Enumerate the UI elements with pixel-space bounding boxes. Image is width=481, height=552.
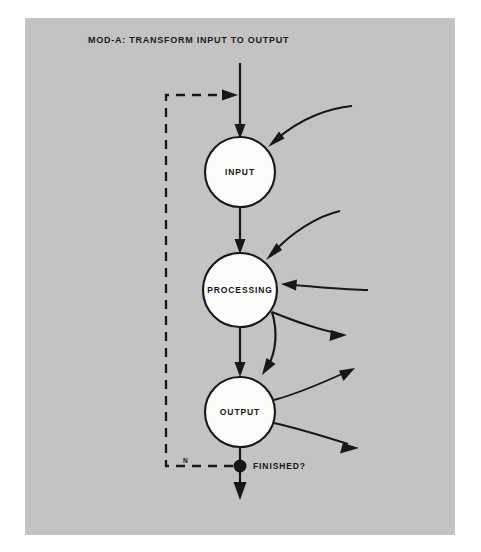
branch-no-label: N (183, 457, 188, 464)
arrowhead-external-into-processing-right (281, 280, 297, 291)
diagram-title: MOD-A: TRANSFORM INPUT TO OUTPUT (88, 35, 289, 45)
edge-external-to-processing-upper (266, 211, 340, 260)
arrowhead-feedback-into-spine (222, 90, 238, 101)
arrowhead-output-outgoing-lower (340, 443, 359, 454)
decision-junction[interactable]: FINISHED? (234, 460, 306, 473)
arrowhead-into-processing-top (235, 239, 246, 254)
edge-input-to-processing (235, 207, 246, 254)
arrowhead-output-outgoing-upper (339, 368, 355, 381)
diagram-root: MOD-A: TRANSFORM INPUT TO OUTPUT INPUT (0, 0, 481, 552)
edge-processing-to-output-straight (235, 327, 246, 377)
edge-entry-to-input (235, 63, 246, 139)
node-processing-label: PROCESSING (207, 285, 273, 295)
edge-decision-exit-down (234, 472, 247, 500)
edge-external-to-processing-right (281, 280, 368, 291)
arrowhead-decision-exit (234, 482, 247, 500)
node-processing[interactable]: PROCESSING (203, 253, 277, 327)
decision-junction-dot[interactable] (234, 460, 247, 473)
arrowhead-into-output-curved (262, 358, 276, 375)
node-output-label: OUTPUT (220, 407, 260, 417)
edge-external-to-input (268, 106, 352, 147)
edge-output-to-external-upper (274, 368, 355, 400)
edge-processing-to-external (272, 312, 347, 341)
arrowhead-processing-outgoing (330, 330, 348, 341)
decision-label: FINISHED? (253, 461, 306, 471)
edge-output-to-external-lower (274, 423, 359, 454)
edge-processing-to-output-curved (262, 312, 276, 375)
node-input-label: INPUT (225, 167, 255, 177)
node-input[interactable]: INPUT (205, 137, 275, 207)
flowchart-canvas: MOD-A: TRANSFORM INPUT TO OUTPUT INPUT (0, 0, 481, 552)
node-output[interactable]: OUTPUT (205, 377, 275, 447)
arrowhead-into-output-straight (235, 362, 246, 377)
